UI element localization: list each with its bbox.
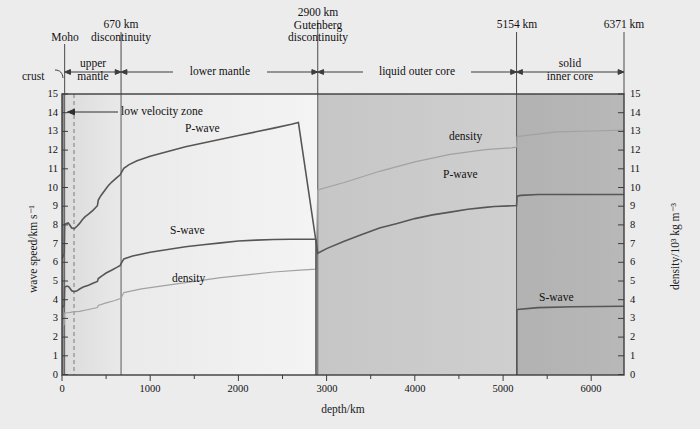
layer-label-inner-core-line1: solid xyxy=(531,57,609,70)
annotation-density-mantle: density xyxy=(172,272,205,284)
y-tick-left-2: 2 xyxy=(36,331,58,342)
layer-label-upper-mantle-line1: upper xyxy=(66,57,120,70)
y-tick-left-12: 12 xyxy=(36,144,58,155)
y-tick-left-10: 10 xyxy=(36,182,58,193)
x-tick-5000: 5000 xyxy=(480,383,526,394)
y-tick-right-4: 4 xyxy=(630,294,652,305)
layer-label-inner-core: solid inner core xyxy=(531,57,609,82)
marker-label-5154: 5154 km xyxy=(483,18,551,31)
layer-label-outer-core: liquid outer core xyxy=(363,65,471,78)
band-lower-mantle xyxy=(121,94,318,375)
y-tick-right-11: 11 xyxy=(630,163,652,174)
y-tick-left-0: 0 xyxy=(36,369,58,380)
y-axis-label-right: density/10³ kg m⁻³ xyxy=(668,203,682,290)
band-inner-core xyxy=(517,94,624,375)
y-tick-left-13: 13 xyxy=(36,125,58,136)
y-tick-right-7: 7 xyxy=(630,238,652,249)
annotation-swave-inner: S-wave xyxy=(539,291,574,303)
layer-label-lower-mantle: lower mantle xyxy=(173,65,267,78)
layer-label-upper-mantle-line2: mantle xyxy=(66,70,120,83)
y-tick-right-2: 2 xyxy=(630,331,652,342)
marker-label-6371: 6371 km xyxy=(590,18,658,31)
y-axis-label-left: wave speed/km s⁻¹ xyxy=(26,205,40,293)
y-tick-left-15: 15 xyxy=(36,88,58,99)
x-tick-3000: 3000 xyxy=(304,383,350,394)
annotation-swave-mantle: S-wave xyxy=(170,224,205,236)
y-tick-left-4: 4 xyxy=(36,294,58,305)
annotation-low-velocity-zone: low velocity zone xyxy=(121,105,203,117)
layer-label-inner-core-line2: inner core xyxy=(531,70,609,83)
x-tick-2000: 2000 xyxy=(215,383,261,394)
y-tick-right-1: 1 xyxy=(630,350,652,361)
x-axis-label: depth/km xyxy=(293,403,393,415)
y-tick-left-1: 1 xyxy=(36,350,58,361)
y-tick-right-14: 14 xyxy=(630,107,652,118)
annotation-pwave-core: P-wave xyxy=(443,168,478,180)
y-tick-right-3: 3 xyxy=(630,312,652,323)
y-tick-right-0: 0 xyxy=(630,369,652,380)
band-upper-mantle xyxy=(65,94,121,375)
x-tick-1000: 1000 xyxy=(127,383,173,394)
y-tick-right-5: 5 xyxy=(630,275,652,286)
y-tick-right-9: 9 xyxy=(630,200,652,211)
marker-label-670-line2: discontinuity xyxy=(80,31,162,44)
band-outer-core xyxy=(318,94,517,375)
marker-label-2900-line2: Gutenberg xyxy=(274,19,362,32)
annotation-density-core: density xyxy=(449,130,482,142)
x-tick-0: 0 xyxy=(39,383,85,394)
layer-bands xyxy=(62,94,624,375)
y-tick-right-12: 12 xyxy=(630,144,652,155)
x-axis-ticks xyxy=(62,375,591,381)
annotation-pwave-mantle: P-wave xyxy=(185,122,220,134)
marker-label-2900-line1: 2900 km xyxy=(274,6,362,19)
y-tick-left-11: 11 xyxy=(36,163,58,174)
x-tick-6000: 6000 xyxy=(568,383,614,394)
y-tick-right-13: 13 xyxy=(630,125,652,136)
layer-label-upper-mantle: upper mantle xyxy=(66,57,120,82)
y-tick-left-3: 3 xyxy=(36,312,58,323)
y-tick-right-6: 6 xyxy=(630,256,652,267)
y-tick-left-14: 14 xyxy=(36,107,58,118)
marker-label-670: 670 km discontinuity xyxy=(80,18,162,43)
marker-label-2900-line3: discontinuity xyxy=(274,31,362,44)
y-tick-right-15: 15 xyxy=(630,88,652,99)
y-tick-right-8: 8 xyxy=(630,219,652,230)
y-tick-right-10: 10 xyxy=(630,182,652,193)
marker-label-2900: 2900 km Gutenberg discontinuity xyxy=(274,6,362,44)
marker-label-670-line1: 670 km xyxy=(80,18,162,31)
layer-label-crust: crust xyxy=(22,70,44,82)
x-tick-4000: 4000 xyxy=(392,383,438,394)
seismic-wave-speed-figure: Moho 670 km discontinuity 2900 km Gutenb… xyxy=(0,0,700,429)
